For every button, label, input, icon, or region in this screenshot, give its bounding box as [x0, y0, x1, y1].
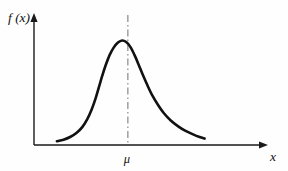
- x-axis-arrowhead: [259, 141, 268, 148]
- probability-density-curve: [57, 40, 205, 141]
- y-axis-label: f (x): [8, 10, 31, 25]
- mean-tick-label: μ: [123, 152, 130, 166]
- y-axis-arrowhead: [30, 13, 37, 22]
- density-figure: f (x) x μ: [0, 0, 288, 171]
- x-axis-label: x: [269, 149, 276, 164]
- density-plot-canvas: f (x) x μ: [0, 0, 288, 171]
